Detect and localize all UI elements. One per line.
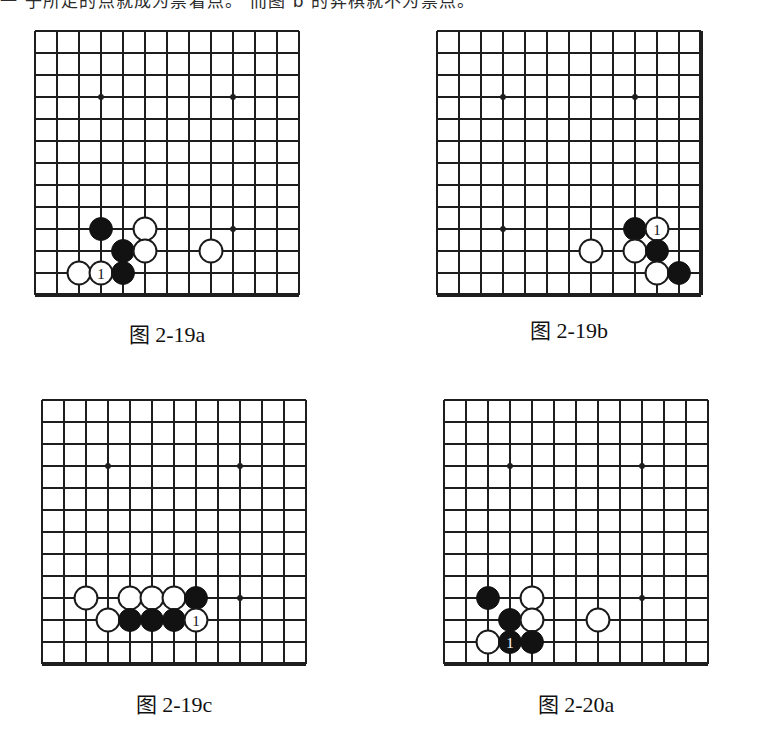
figure-caption-fig-2-20a: 图 2-20a (435, 688, 717, 718)
stone-black (112, 262, 135, 285)
stone-white (68, 262, 91, 285)
stone-white (75, 587, 98, 610)
stone-black (185, 587, 208, 610)
stone-white (646, 262, 669, 285)
go-diagram-fig-2-19a: 1图 2-19a (26, 22, 308, 304)
stone-black (668, 262, 691, 285)
stone-black (141, 609, 164, 632)
stone-white (587, 609, 610, 632)
move-number: 1 (653, 222, 661, 238)
stones: 1 (75, 587, 208, 632)
stone-black (477, 587, 500, 610)
caption-number: 2-19a (150, 322, 206, 347)
stone-black (499, 609, 522, 632)
stone-black (90, 218, 113, 241)
figure-caption-fig-2-19b: 图 2-19b (428, 314, 710, 344)
stone-black (119, 609, 142, 632)
caption-cn-char: 图 (129, 323, 150, 347)
stone-white (141, 587, 164, 610)
stone-white (97, 609, 120, 632)
stone-black (163, 609, 186, 632)
stone-white (134, 240, 157, 263)
go-board-fig-2-19b: 1 (428, 22, 710, 304)
figure-caption-fig-2-19c: 图 2-19c (33, 688, 315, 718)
board-grid (444, 400, 708, 664)
go-diagram-fig-2-20a: 1图 2-20a (435, 391, 717, 673)
board-grid (35, 31, 299, 295)
stone-white (521, 587, 544, 610)
stone-white (200, 240, 223, 263)
go-diagram-fig-2-19b: 1图 2-19b (428, 22, 710, 304)
stone-black (624, 218, 647, 241)
caption-cn-char: 图 (530, 319, 551, 343)
stone-white (134, 218, 157, 241)
figure-caption-fig-2-19a: 图 2-19a (26, 318, 308, 348)
stone-black-numbered: 1 (499, 631, 522, 654)
move-number: 1 (192, 613, 200, 629)
caption-number: 2-19c (157, 692, 213, 717)
stone-white (624, 240, 647, 263)
go-board-fig-2-19a: 1 (26, 22, 308, 304)
stone-white (580, 240, 603, 263)
stone-white (477, 631, 500, 654)
stone-white-numbered: 1 (646, 218, 669, 241)
stone-white (521, 609, 544, 632)
move-number: 1 (506, 635, 514, 651)
go-diagram-fig-2-19c: 1图 2-19c (33, 391, 315, 673)
caption-cn-char: 图 (538, 693, 559, 717)
stone-black (112, 240, 135, 263)
move-number: 1 (97, 266, 105, 282)
caption-cn-char: 图 (136, 693, 157, 717)
stone-white (119, 587, 142, 610)
scan-page: 一 子所走的点就成为禁着点。 而图 b 的弈棋就不为禁点。 1图 2-19a1图… (0, 0, 760, 750)
go-board-fig-2-19c: 1 (33, 391, 315, 673)
stone-white-numbered: 1 (185, 609, 208, 632)
stone-black (521, 631, 544, 654)
stone-black (646, 240, 669, 263)
stone-white-numbered: 1 (90, 262, 113, 285)
cutoff-body-text: 一 子所走的点就成为禁着点。 而图 b 的弈棋就不为禁点。 (0, 0, 760, 9)
go-board-fig-2-20a: 1 (435, 391, 717, 673)
stone-white (163, 587, 186, 610)
caption-number: 2-20a (559, 692, 615, 717)
caption-number: 2-19b (551, 318, 608, 343)
